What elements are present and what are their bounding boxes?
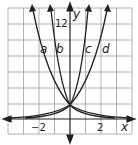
x-tick-2: 2	[97, 122, 103, 133]
label-a: a	[40, 42, 47, 56]
label-d: d	[102, 42, 110, 56]
label-b: b	[56, 42, 64, 56]
label-c: c	[85, 42, 92, 56]
x-axis-label: x	[120, 120, 129, 134]
x-tick-neg2: −2	[31, 122, 46, 133]
y-tick-12: 12	[55, 18, 68, 29]
y-axis-label: y	[72, 7, 81, 21]
exponential-graph: a b c d y x 12 −2 2	[0, 0, 138, 145]
